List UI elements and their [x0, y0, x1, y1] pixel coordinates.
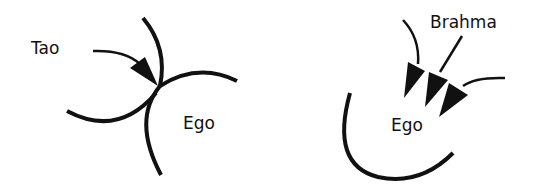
ego-arc-upper	[160, 73, 237, 86]
brahma-arrowhead-3-icon	[439, 83, 468, 117]
brahma-arrowhead-1-icon	[404, 62, 425, 98]
tao-ego-diagram	[67, 18, 237, 175]
brahma-arrow-1-shaft	[403, 20, 418, 64]
diagram-canvas: Tao Ego Brahma Ego	[0, 0, 534, 191]
tao-label: Tao	[31, 40, 59, 57]
brahma-arrow-2-shaft	[440, 36, 462, 72]
brahma-arrow-3-shaft	[463, 78, 505, 86]
ego-label-right: Ego	[391, 117, 423, 134]
brahma-label: Brahma	[430, 14, 497, 31]
ego-open-arc	[344, 93, 453, 179]
ego-label-left: Ego	[183, 115, 215, 132]
tao-arrowhead-icon	[130, 57, 158, 86]
brahma-ego-diagram	[344, 20, 505, 179]
tao-arrow-shaft	[93, 51, 140, 64]
tao-arc-lower	[67, 93, 156, 121]
